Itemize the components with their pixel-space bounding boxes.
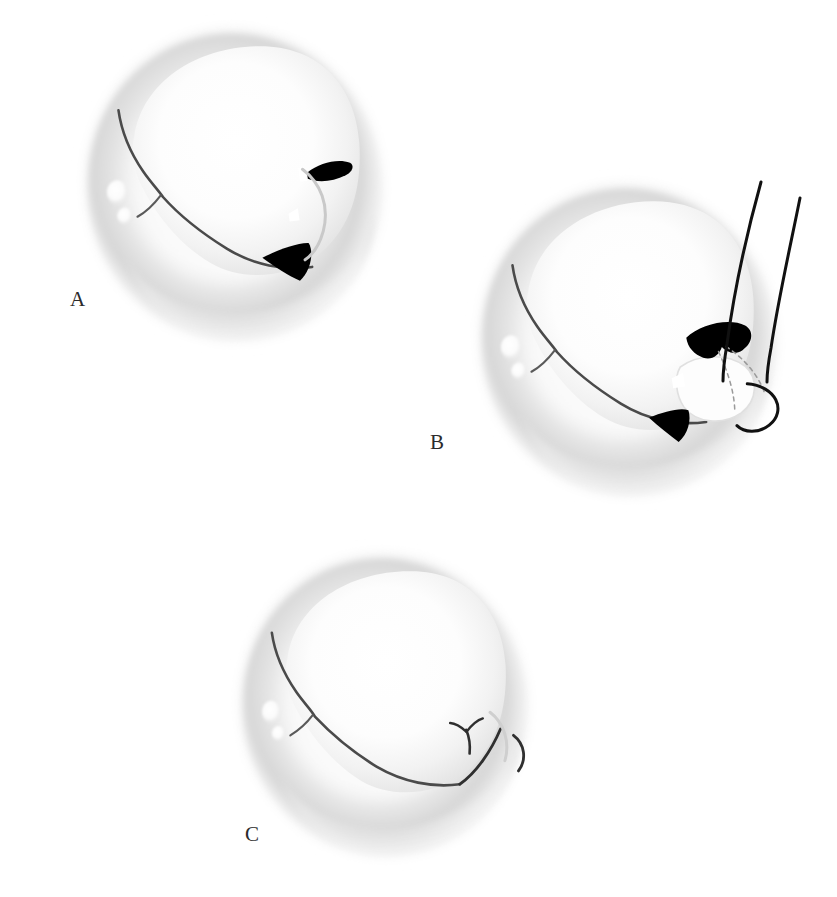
figure-caption: [0, 884, 837, 897]
panel-c-figure: [213, 528, 554, 883]
panel-a-figure: [58, 2, 410, 368]
panel-label-b: B: [430, 432, 445, 453]
panel-label-a: A: [70, 289, 86, 310]
panel-b-figure: [452, 157, 804, 523]
panel-label-c: C: [245, 824, 260, 845]
valve-repair-illustration: [0, 0, 837, 897]
